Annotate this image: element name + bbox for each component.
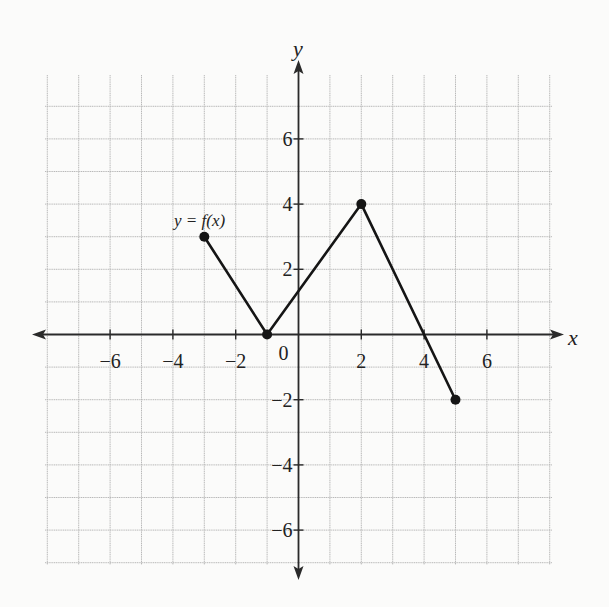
- x-tick-label: −6: [99, 350, 120, 372]
- y-axis-label: y: [291, 36, 303, 61]
- vertex-dot: [199, 232, 209, 242]
- function-label: y = f(x): [172, 211, 225, 230]
- y-tick-label: 6: [283, 128, 293, 150]
- x-tick-label: 2: [356, 350, 366, 372]
- y-tick-label: −2: [271, 389, 292, 411]
- axes: [32, 60, 564, 580]
- x-tick-label: 4: [419, 350, 429, 372]
- function-graph: −6−4−20246642−2−4−6 x y y = f(x): [0, 0, 609, 607]
- y-tick-label: −6: [271, 519, 292, 541]
- y-tick-label: 2: [283, 258, 293, 280]
- vertex-dot: [262, 330, 272, 340]
- x-tick-label: −4: [162, 350, 183, 372]
- vertex-dot: [451, 395, 461, 405]
- y-tick-label: 4: [283, 193, 293, 215]
- vertex-dot: [356, 199, 366, 209]
- origin-label: 0: [279, 342, 289, 364]
- x-tick-label: 6: [482, 350, 492, 372]
- x-tick-label: −2: [225, 350, 246, 372]
- y-tick-label: −4: [271, 454, 292, 476]
- x-axis-label: x: [567, 325, 578, 350]
